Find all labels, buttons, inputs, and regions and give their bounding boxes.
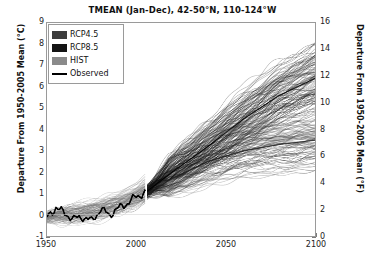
y-tick-label-left: 7 [14, 60, 44, 69]
chart-title: TMEAN (Jan-Dec), 42-50°N, 110-124°W [0, 5, 365, 15]
y-tick-label-left: 2 [14, 168, 44, 177]
legend-item-observed: Observed [52, 67, 120, 80]
y-tick-mark-right [312, 237, 316, 238]
climate-projection-figure: TMEAN (Jan-Dec), 42-50°N, 110-124°W Depa… [0, 0, 365, 272]
legend-swatch-icon [52, 57, 67, 65]
y-tick-label-left: 0 [14, 211, 44, 220]
y-tick-mark-left [46, 237, 50, 238]
y-tick-label-right: 4 [320, 178, 350, 187]
y-tick-label-right: 10 [320, 98, 350, 107]
legend-item-rcp8-5: RCP8.5 [52, 41, 120, 54]
y-tick-label-right: 12 [320, 71, 350, 80]
legend-item-hist: HIST [52, 54, 120, 67]
y-tick-label-left: 5 [14, 103, 44, 112]
legend-swatch-icon [52, 44, 67, 52]
y-tick-label-right: 16 [320, 17, 350, 26]
legend-label: RCP8.5 [70, 43, 98, 52]
x-tick-label: 2000 [114, 240, 158, 249]
legend-label: Observed [70, 69, 109, 78]
legend-line-icon [52, 70, 67, 78]
y-tick-label-left: 3 [14, 146, 44, 155]
x-tick-label: 1950 [24, 240, 68, 249]
y-tick-label-left: 4 [14, 125, 44, 134]
x-tick-label: 2050 [204, 240, 248, 249]
y-tick-label-left: 1 [14, 189, 44, 198]
x-tick-mark [316, 233, 317, 237]
legend-label: HIST [70, 56, 88, 65]
y-axis-label-right: Departure From 1950-2005 Mean (°F) [355, 1, 364, 216]
y-tick-label-right: 6 [320, 151, 350, 160]
legend-label: RCP4.5 [70, 30, 98, 39]
y-tick-label-right: 2 [320, 205, 350, 214]
y-tick-label-left: 9 [14, 17, 44, 26]
y-tick-label-right: 14 [320, 44, 350, 53]
y-tick-label-left: 8 [14, 39, 44, 48]
y-tick-label-left: 6 [14, 82, 44, 91]
y-tick-label-right: 8 [320, 125, 350, 134]
legend-swatch-icon [52, 31, 67, 39]
x-tick-label: 2100 [294, 240, 338, 249]
legend: RCP4.5RCP8.5HISTObserved [48, 24, 124, 84]
legend-item-rcp4-5: RCP4.5 [52, 28, 120, 41]
